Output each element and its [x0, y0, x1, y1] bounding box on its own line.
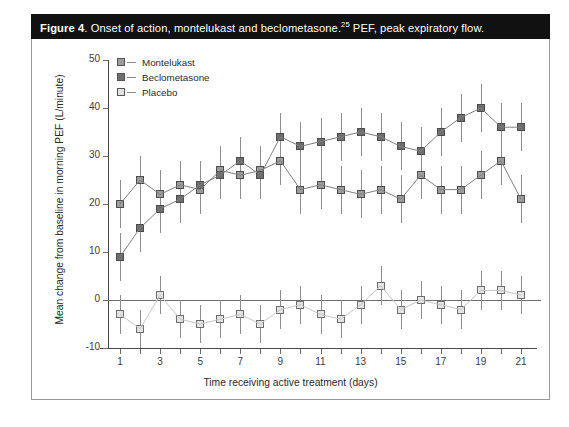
data-point	[417, 147, 425, 155]
legend-label-placebo: Placebo	[142, 87, 177, 98]
x-tick	[361, 349, 362, 354]
y-tick-label: -10	[64, 341, 100, 352]
figure-caption: Figure 4. Onset of action, montelukast a…	[31, 20, 484, 34]
data-point	[477, 171, 485, 179]
x-tick	[381, 349, 382, 354]
data-point	[337, 133, 345, 141]
data-point	[296, 142, 304, 150]
x-tick	[260, 349, 261, 354]
legend-line-beclometasone	[127, 77, 136, 78]
x-tick	[481, 349, 482, 354]
data-point	[236, 157, 244, 165]
x-tick	[280, 349, 281, 354]
legend-item-placebo: Placebo	[117, 85, 210, 99]
legend-line-placebo	[127, 92, 136, 93]
data-point	[357, 128, 365, 136]
y-tick-label: 0	[64, 293, 100, 304]
y-tick	[103, 60, 108, 61]
x-tick-label: 3	[146, 356, 174, 367]
y-tick-label: 30	[64, 149, 100, 160]
data-point	[317, 138, 325, 146]
data-point	[296, 186, 304, 194]
data-point	[477, 104, 485, 112]
data-point	[196, 320, 204, 328]
figure-caption-reference: 25	[341, 20, 350, 29]
data-point	[216, 171, 224, 179]
data-point	[256, 320, 264, 328]
x-tick	[461, 349, 462, 354]
x-tick-label: 11	[307, 356, 335, 367]
data-point	[236, 310, 244, 318]
y-tick	[103, 108, 108, 109]
y-tick-label: 50	[64, 53, 100, 64]
legend-marker-montelukast	[117, 58, 125, 66]
data-point	[397, 306, 405, 314]
x-axis-title: Time receiving active treatment (days)	[31, 377, 550, 388]
data-point	[497, 286, 505, 294]
data-point	[397, 195, 405, 203]
x-tick	[341, 349, 342, 354]
data-point	[296, 301, 304, 309]
data-point	[317, 181, 325, 189]
data-point	[417, 171, 425, 179]
x-tick	[160, 349, 161, 354]
legend-label-beclometasone: Beclometasone	[142, 72, 210, 83]
data-point	[517, 195, 525, 203]
data-point	[156, 205, 164, 213]
data-point	[417, 296, 425, 304]
legend-label-montelukast: Montelukast	[142, 57, 195, 68]
y-tick-label: 10	[64, 245, 100, 256]
data-point	[136, 224, 144, 232]
figure-caption-tail: PEF, peak expiratory flow.	[350, 21, 485, 33]
x-tick-label: 9	[266, 356, 294, 367]
x-tick	[501, 349, 502, 354]
chart-legend: Montelukast Beclometasone Placebo	[117, 55, 210, 100]
x-tick-label: 1	[106, 356, 134, 367]
data-point	[156, 190, 164, 198]
x-tick	[441, 349, 442, 354]
data-point	[256, 171, 264, 179]
data-point	[156, 291, 164, 299]
data-point	[497, 157, 505, 165]
x-tick-label: 21	[507, 356, 535, 367]
y-tick	[103, 348, 108, 349]
x-tick	[240, 349, 241, 354]
legend-marker-placebo	[117, 88, 125, 96]
data-point	[236, 171, 244, 179]
data-point	[276, 157, 284, 165]
data-point	[317, 310, 325, 318]
data-point	[276, 306, 284, 314]
data-point	[457, 186, 465, 194]
figure-title-bar: Figure 4. Onset of action, montelukast a…	[31, 14, 550, 39]
x-tick	[401, 349, 402, 354]
data-point	[377, 133, 385, 141]
legend-item-montelukast: Montelukast	[117, 55, 210, 69]
legend-item-beclometasone: Beclometasone	[117, 70, 210, 84]
chart-plot-area: Montelukast Beclometasone Placebo Mean c…	[31, 39, 550, 400]
x-tick-label: 7	[226, 356, 254, 367]
y-tick-label: 20	[64, 197, 100, 208]
data-point	[377, 186, 385, 194]
data-point	[517, 123, 525, 131]
y-tick-label: 40	[64, 101, 100, 112]
data-point	[216, 315, 224, 323]
data-point	[357, 190, 365, 198]
data-point	[276, 133, 284, 141]
x-tick-label: 15	[387, 356, 415, 367]
x-tick	[300, 349, 301, 354]
data-point	[457, 114, 465, 122]
x-tick	[421, 349, 422, 354]
x-axis-line	[100, 348, 537, 349]
data-point	[437, 128, 445, 136]
data-point	[176, 315, 184, 323]
zero-reference-line	[108, 300, 541, 301]
x-tick-label: 19	[467, 356, 495, 367]
data-point	[357, 301, 365, 309]
data-point	[337, 186, 345, 194]
data-point	[517, 291, 525, 299]
data-point	[116, 253, 124, 261]
x-tick	[521, 349, 522, 354]
x-tick	[120, 349, 121, 354]
x-tick-label: 17	[427, 356, 455, 367]
data-point	[136, 176, 144, 184]
